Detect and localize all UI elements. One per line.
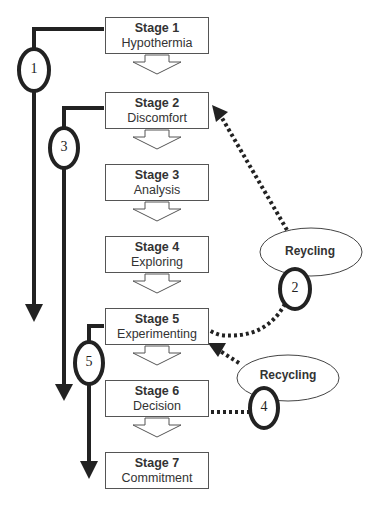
stage-7-name: Commitment [106,471,208,486]
block-arrow-1-2 [133,55,181,74]
stage-7-title: Stage 7 [106,456,208,471]
stage-2-name: Discomfort [106,111,208,126]
stage-4-name: Exploring [106,255,208,270]
stage-6-title: Stage 6 [106,384,208,399]
stage-5-name: Experimenting [106,327,208,342]
recycling-arrowhead-stage-5 [208,343,226,357]
recycling-label-lower: Recycling [248,368,328,382]
recycling-path-to-stage-5 [202,304,285,336]
stage-1-name: Hypothermia [106,36,208,51]
stage-box-3: Stage 3 Analysis [105,164,209,201]
recycling-label-upper: Reycling [270,244,350,258]
stage-box-5: Stage 5 Experimenting [105,308,209,345]
path-3-arrowhead [55,384,73,401]
path-4-number: 4 [254,399,274,415]
stage-box-1: Stage 1 Hypothermia [105,17,209,54]
path-2-number: 2 [285,280,305,296]
path-1-arrowhead [25,304,43,322]
block-arrow-6-7 [133,418,181,437]
stage-4-title: Stage 4 [106,240,208,255]
recycling-path-lower-to-stage-5 [220,351,239,363]
stage-box-2: Stage 2 Discomfort [105,92,209,129]
path-3-number: 3 [54,139,74,155]
block-arrow-3-4 [133,202,181,221]
recycling-arrowhead-stage-2 [212,105,228,122]
stage-6-name: Decision [106,399,208,414]
block-arrow-2-3 [133,130,181,149]
stage-2-title: Stage 2 [106,96,208,111]
stage-3-name: Analysis [106,183,208,198]
stage-box-7: Stage 7 Commitment [105,452,209,489]
path-1-number: 1 [24,61,44,77]
stage-box-6: Stage 6 Decision [105,380,209,417]
block-arrow-4-5 [133,274,181,293]
recycling-path-to-stage-2 [222,118,287,230]
path-5-number: 5 [79,354,99,370]
stage-3-title: Stage 3 [106,168,208,183]
stage-1-title: Stage 1 [106,21,208,36]
stage-box-4: Stage 4 Exploring [105,236,209,273]
stage-5-title: Stage 5 [106,312,208,327]
block-arrow-5-6 [133,346,181,365]
path-5-arrowhead [80,461,98,479]
